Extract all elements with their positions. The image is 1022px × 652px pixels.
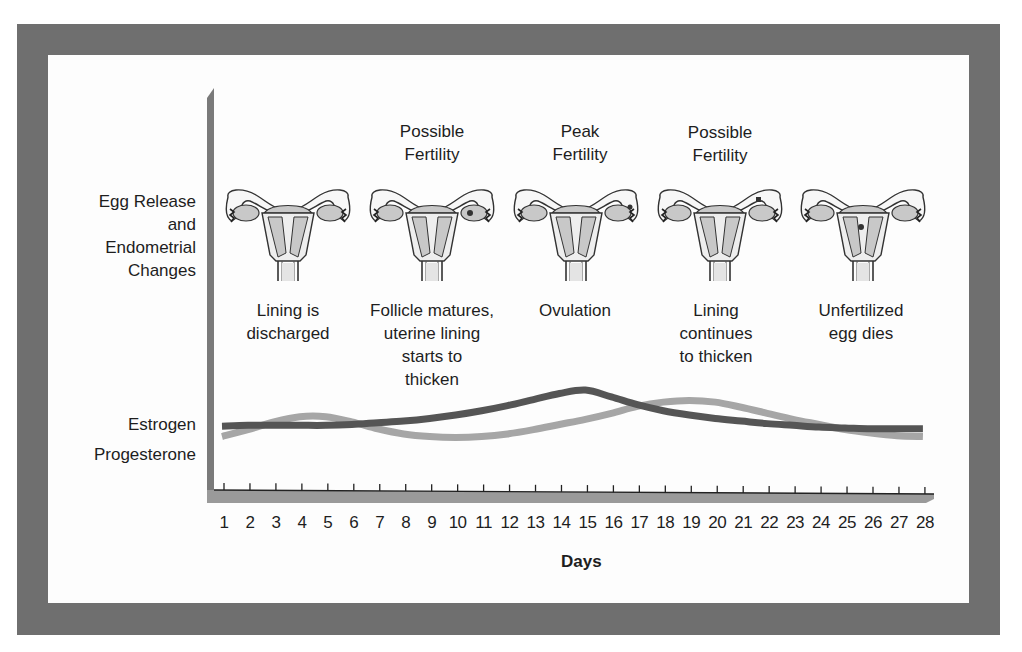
x-tick-label: 3 [263, 513, 289, 533]
x-tick-label: 7 [367, 513, 393, 533]
x-tick-label: 13 [523, 513, 549, 533]
x-tick-label: 19 [678, 513, 704, 533]
x-tick-label: 17 [626, 513, 652, 533]
hormone-chart [0, 0, 1022, 652]
x-tick-label: 6 [341, 513, 367, 533]
x-tick-label: 8 [393, 513, 419, 533]
x-tick-label: 4 [289, 513, 315, 533]
x-tick-label: 21 [730, 513, 756, 533]
x-tick-label: 27 [886, 513, 912, 533]
x-tick-label: 24 [808, 513, 834, 533]
x-tick-label: 20 [704, 513, 730, 533]
progesterone-curve [222, 400, 923, 437]
x-tick-label: 2 [237, 513, 263, 533]
x-tick-label: 12 [497, 513, 523, 533]
x-axis-title: Days [561, 552, 602, 572]
x-tick-label: 25 [834, 513, 860, 533]
x-tick-label: 1 [211, 513, 237, 533]
x-tick-label: 26 [860, 513, 886, 533]
x-tick-label: 23 [782, 513, 808, 533]
x-tick-label: 11 [471, 513, 497, 533]
x-tick-label: 10 [445, 513, 471, 533]
x-tick-label: 28 [912, 513, 938, 533]
x-tick-label: 5 [315, 513, 341, 533]
x-tick-label: 18 [652, 513, 678, 533]
y-axis [207, 88, 214, 492]
x-tick-label: 22 [756, 513, 782, 533]
x-tick-label: 9 [419, 513, 445, 533]
x-tick-label: 15 [574, 513, 600, 533]
x-tick-label: 14 [548, 513, 574, 533]
x-tick-label: 16 [600, 513, 626, 533]
